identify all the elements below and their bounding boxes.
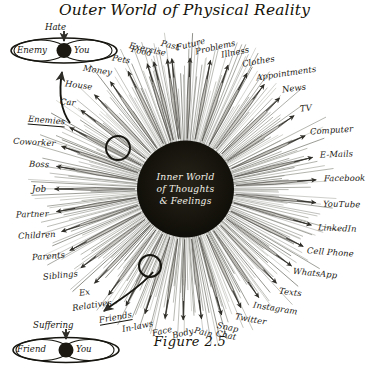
ray-arrow: [95, 95, 108, 109]
suffering-label: Suffering: [33, 320, 74, 330]
ray-label: Job: [32, 185, 46, 194]
ray-label: Car: [59, 97, 76, 107]
ray-arrow: [70, 242, 87, 251]
hate-label: Hate: [45, 22, 66, 32]
ray-label: Partner: [16, 209, 49, 218]
ray-arrow: [222, 65, 228, 83]
ray-label: YouTube: [323, 199, 360, 208]
ray-label: Boss: [28, 159, 48, 168]
ray-arrow: [145, 296, 151, 314]
ray-label: LinkedIn: [318, 223, 357, 233]
top-pod-you-label: You: [74, 45, 90, 55]
decorative-ray: [181, 73, 184, 143]
ray-arrow: [62, 146, 80, 152]
figure-canvas: Outer World of Physical Reality: [0, 0, 369, 375]
decorative-ray: [187, 235, 188, 291]
ray-arrow: [95, 270, 108, 284]
ray-arrow: [238, 73, 247, 90]
ray-label: E-Mails: [319, 149, 352, 159]
ray-arrow: [248, 282, 259, 298]
ray-label: Coworker: [13, 136, 56, 147]
sunburst-graphic: [0, 0, 369, 375]
ray-arrow: [288, 136, 305, 144]
decorative-ray: [132, 64, 168, 148]
figure-caption: Figure 2.5: [130, 334, 250, 349]
ray-label: Facebook: [323, 174, 364, 183]
ray-arrow: [276, 255, 291, 266]
decorative-ray: [231, 187, 311, 188]
decorative-ray: [120, 228, 162, 300]
inner-world-core: [137, 141, 234, 238]
ray-arrow: [189, 58, 190, 77]
top-pod-knot: [57, 43, 72, 58]
decorative-ray: [56, 100, 148, 163]
ray-label: TV: [300, 103, 313, 113]
ray-arrow: [81, 110, 96, 121]
bottom-pod-knot: [59, 343, 74, 358]
ray-arrow: [62, 226, 80, 232]
ray-label: Ex: [79, 288, 91, 298]
bottom-pod-you-label: You: [76, 344, 92, 354]
bottom-pod-friend-label: Friend: [17, 344, 46, 354]
top-pod-enemy-label: Enemy: [17, 45, 47, 55]
